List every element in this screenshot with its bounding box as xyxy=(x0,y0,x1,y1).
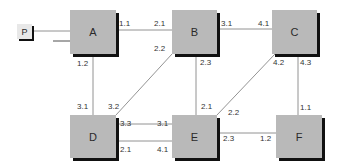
node-c: C xyxy=(272,10,317,54)
node-c-label: C xyxy=(291,26,299,38)
node-d: D xyxy=(70,115,116,158)
node-a: A xyxy=(70,10,116,54)
port-label: 2.1 xyxy=(120,146,131,154)
port-label: 1.1 xyxy=(119,20,130,28)
node-e-label: E xyxy=(191,131,198,143)
port-label: 3.3 xyxy=(120,120,131,128)
node-f: F xyxy=(276,115,322,158)
port-label: 3.2 xyxy=(108,103,119,111)
node-p: P xyxy=(17,24,32,39)
port-label: 4.2 xyxy=(273,59,284,67)
node-p-label: P xyxy=(21,27,27,37)
port-label: 3.1 xyxy=(77,103,88,111)
port-label: 2.2 xyxy=(154,45,165,53)
node-b: B xyxy=(172,10,217,54)
port-label: 4.3 xyxy=(300,59,311,67)
node-d-label: D xyxy=(89,131,97,143)
port-label: 2.1 xyxy=(154,20,165,28)
network-diagram: P A B C D E F 1.1 2.1 2.2 1.2 3.1 4.1 2.… xyxy=(0,0,339,164)
port-label: 4.1 xyxy=(157,146,168,154)
port-label: 2.3 xyxy=(200,59,211,67)
node-b-label: B xyxy=(191,26,198,38)
port-label: 2.2 xyxy=(228,109,239,117)
node-e: E xyxy=(172,115,217,158)
port-label: 1.2 xyxy=(77,60,88,68)
port-label: 2.1 xyxy=(201,103,212,111)
port-label: 3.1 xyxy=(157,120,168,128)
node-f-label: F xyxy=(296,131,303,143)
port-label: 1.1 xyxy=(300,104,311,112)
port-label: 1.2 xyxy=(260,135,271,143)
port-label: 2.3 xyxy=(223,135,234,143)
port-label: 3.1 xyxy=(221,20,232,28)
node-a-label: A xyxy=(89,26,96,38)
port-label: 4.1 xyxy=(258,20,269,28)
edge-c-e xyxy=(217,54,275,115)
edge-b-d xyxy=(116,54,172,115)
